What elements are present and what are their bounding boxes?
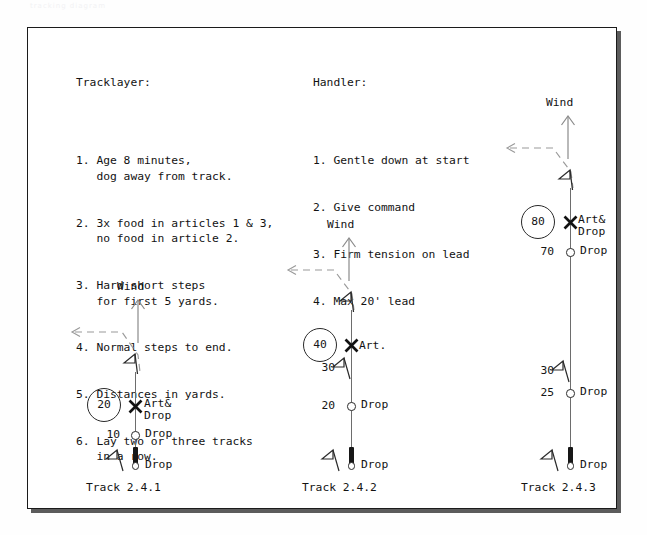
flag-icon (557, 168, 579, 192)
marker-label: Drop (580, 459, 607, 471)
handler-item: 1. Gentle down at start (313, 153, 469, 169)
page-canvas: tracking diagram Tracklayer: 1. Age 8 mi… (0, 0, 647, 535)
handler-instructions: Handler: 1. Gentle down at start 2. Give… (313, 44, 469, 371)
handler-title: Handler: (313, 75, 469, 91)
article-x-icon (563, 215, 578, 230)
article-x-icon (344, 338, 359, 353)
wind-drift-dashed-path (276, 258, 376, 318)
marker-label: Drop (361, 459, 388, 471)
track-caption: Track 2.4.2 (302, 481, 377, 494)
marker-label: Drop (361, 399, 388, 411)
track-path-line (351, 310, 352, 465)
drop-ring-icon (347, 402, 356, 411)
marker-label: Art& Drop (578, 214, 605, 239)
drop-ring-icon (566, 389, 575, 398)
flag-icon (539, 447, 563, 473)
distance-badge: 80 (521, 205, 555, 239)
marker-label: Drop (580, 386, 607, 398)
drop-ring-icon (567, 462, 575, 470)
drop-ring-icon (348, 462, 356, 470)
drop-ring-icon (566, 248, 575, 257)
flag-icon (338, 290, 360, 314)
track-caption: Track 2.4.3 (521, 481, 596, 494)
handler-item: 2. Give command (313, 200, 469, 216)
flag-icon (331, 355, 355, 381)
wind-label: Wind (546, 96, 573, 109)
distance-label: 20 (307, 399, 335, 412)
wind-label: Wind (327, 218, 354, 231)
track-diagram-3: Wind 80 Art& Drop 70 Drop 30 (0, 0, 250, 535)
flag-icon (550, 358, 574, 384)
distance-label: 70 (526, 245, 554, 258)
marker-label: Drop (580, 245, 607, 257)
marker-label: Art. (359, 340, 386, 352)
distance-label: 25 (526, 386, 554, 399)
wind-drift-dashed-path (495, 136, 595, 196)
flag-icon (320, 447, 344, 473)
